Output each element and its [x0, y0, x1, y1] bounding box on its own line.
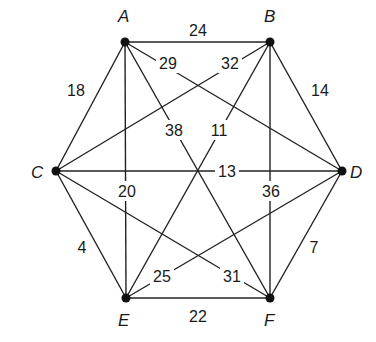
svg-text:31: 31	[223, 268, 241, 285]
edge-weight-b-c: 32	[218, 53, 242, 73]
edge-weight-a-f: 38	[162, 120, 186, 140]
svg-text:13: 13	[218, 163, 236, 180]
edge-weight-c-d: 13	[215, 161, 239, 181]
edge-weight-d-e: 25	[150, 266, 174, 286]
node-d	[338, 167, 347, 176]
svg-text:38: 38	[165, 122, 183, 139]
edge-weight-a-d: 29	[156, 53, 180, 73]
svg-text:11: 11	[211, 122, 228, 139]
svg-text:29: 29	[159, 55, 177, 72]
edge-weights: 2418292038321411361343125722	[67, 22, 329, 325]
svg-text:20: 20	[118, 183, 136, 200]
node-label-d: D	[350, 163, 362, 182]
svg-text:32: 32	[221, 55, 239, 72]
node-a	[121, 38, 130, 47]
edge-a-e	[125, 42, 126, 298]
node-b	[266, 38, 275, 47]
edge-a-c	[56, 42, 125, 171]
edge-weight-a-b: 24	[189, 22, 207, 39]
edge-weight-a-c: 18	[67, 82, 85, 99]
svg-text:36: 36	[262, 183, 280, 200]
svg-text:4: 4	[78, 239, 87, 256]
svg-text:22: 22	[189, 308, 207, 325]
node-c	[52, 167, 61, 176]
node-label-f: F	[264, 311, 276, 330]
edge-weight-e-f: 22	[189, 308, 207, 325]
edge-weight-c-f: 31	[220, 266, 244, 286]
edge-weight-d-f: 7	[310, 239, 319, 256]
node-e	[122, 294, 131, 303]
svg-text:7: 7	[310, 239, 319, 256]
edge-b-d	[270, 42, 342, 171]
node-label-c: C	[31, 163, 44, 182]
svg-text:25: 25	[153, 268, 171, 285]
graph-edges	[56, 42, 342, 298]
edge-weight-a-e: 20	[115, 181, 139, 201]
node-label-b: B	[264, 7, 275, 26]
svg-text:24: 24	[189, 22, 207, 39]
edge-weight-b-e: 11	[207, 120, 231, 140]
node-label-e: E	[118, 311, 130, 330]
weighted-graph-diagram: 2418292038321411361343125722 ABCDEF	[0, 0, 376, 342]
node-label-a: A	[117, 7, 129, 26]
edge-weight-c-e: 4	[78, 239, 87, 256]
edge-weight-b-f: 36	[259, 181, 283, 201]
node-f	[266, 294, 275, 303]
svg-text:18: 18	[67, 82, 85, 99]
svg-text:14: 14	[311, 82, 329, 99]
edge-weight-b-d: 14	[311, 82, 329, 99]
